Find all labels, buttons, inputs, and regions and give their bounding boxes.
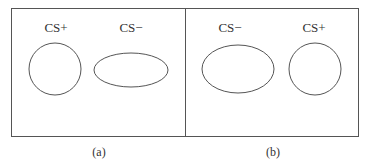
panel-a-label-2: CS− [119, 20, 142, 35]
panel-b-caption: (b) [266, 145, 280, 159]
panel-a-caption: (a) [92, 145, 105, 159]
panel-a-label-1: CS+ [44, 20, 67, 35]
figure: CS+ CS− (a) CS− CS+ (b) [0, 0, 371, 163]
panel-b-label-1: CS− [218, 20, 241, 35]
panel-b-cs-minus-ellipse [202, 45, 274, 93]
panel-a-cs-plus-circle [29, 43, 81, 95]
panel-a-cs-minus-ellipse [94, 53, 168, 87]
panel-b-cs-plus-circle [289, 43, 341, 95]
panel-a: CS+ CS− (a) [12, 9, 186, 160]
panel-b: CS− CS+ (b) [186, 9, 359, 160]
panel-a-frame [12, 9, 186, 137]
panel-b-label-2: CS+ [302, 20, 325, 35]
panel-b-frame [186, 9, 359, 137]
